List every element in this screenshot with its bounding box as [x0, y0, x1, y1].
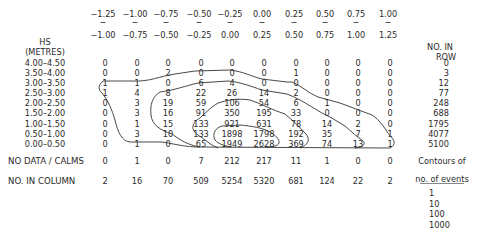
legend-underline	[420, 183, 464, 184]
contour-lines	[0, 0, 479, 238]
